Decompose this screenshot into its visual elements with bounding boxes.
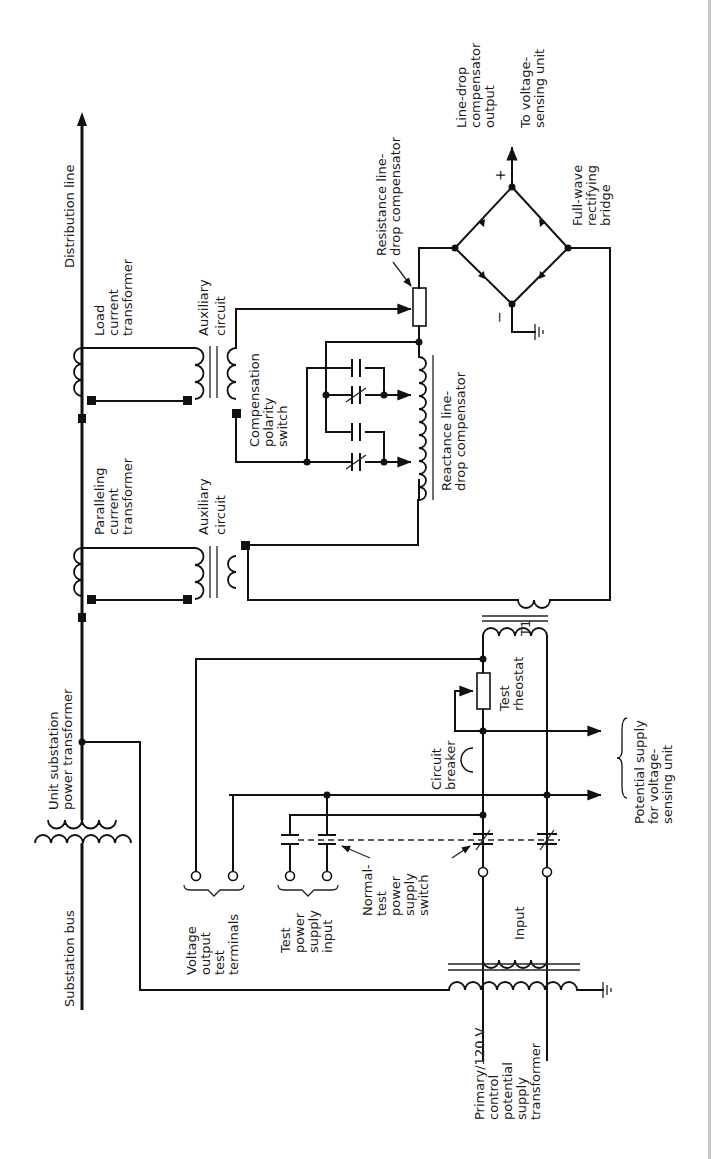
label-bridge-3: bridge bbox=[598, 184, 613, 226]
unit-substation-primary-coil-icon bbox=[35, 835, 131, 843]
label-test-power-4: input bbox=[320, 920, 335, 953]
label-normal-test-5: switch bbox=[416, 874, 431, 916]
unit-substation-secondary-coil-icon bbox=[48, 820, 116, 829]
label-ldc-output-2: compensator bbox=[468, 42, 483, 128]
page-edge-border bbox=[708, 0, 711, 1159]
load-ct-secondary bbox=[78, 346, 241, 423]
test-power-brace bbox=[278, 885, 338, 896]
label-ldc-output-3: output bbox=[482, 85, 497, 128]
resistance-to-bridge-wire bbox=[419, 248, 455, 288]
label-voltage-output-3: test bbox=[212, 950, 227, 975]
label-primary-5: transformer bbox=[528, 1042, 543, 1120]
label-primary-1: Primary/120 V bbox=[472, 1027, 487, 1120]
t1-secondary-coil-icon bbox=[483, 628, 547, 636]
label-test-power-3: supply bbox=[306, 910, 321, 953]
label-paralleling-ct-3: transformer bbox=[120, 457, 135, 535]
resistance-compensator bbox=[413, 288, 426, 326]
reactance-compensator-coil-icon bbox=[419, 357, 426, 500]
label-unit-substation-1: Unit substation bbox=[46, 711, 61, 810]
label-normal-test-3: power bbox=[388, 875, 403, 916]
label-circuit-breaker-2: breaker bbox=[443, 740, 458, 790]
label-to-vsu-1: To voltage- bbox=[518, 57, 533, 129]
label-normal-test-4: supply bbox=[402, 873, 417, 916]
label-load-ct-1: Load bbox=[92, 305, 107, 336]
label-aux-top-2: circuit bbox=[213, 296, 228, 336]
paralleling-ct-secondary bbox=[78, 541, 250, 622]
label-load-ct-2: current bbox=[106, 289, 121, 336]
label-potential-supply-3: sensing unit bbox=[660, 745, 675, 824]
label-potential-supply-2: for voltage- bbox=[646, 748, 661, 824]
compensation-polarity-switch bbox=[300, 342, 419, 470]
label-comp-polarity-1: Compensation bbox=[247, 353, 262, 447]
label-test-power-2: power bbox=[292, 912, 307, 953]
label-aux-top-1: Auxiliary bbox=[196, 279, 211, 336]
potential-supply-brace bbox=[617, 718, 627, 798]
circuit-breaker-icon bbox=[461, 748, 473, 772]
label-paralleling-ct-2: current bbox=[106, 488, 121, 535]
aux-bottom-wire bbox=[245, 500, 418, 545]
label-reactance-1: Reactance line- bbox=[439, 390, 454, 491]
control-transformer-primary-coil-icon bbox=[449, 982, 577, 990]
label-circuit-breaker-1: Circuit bbox=[429, 748, 444, 790]
label-test-rheostat-2: rheostat bbox=[511, 657, 526, 711]
label-potential-supply-1: Potential supply bbox=[632, 720, 647, 824]
label-load-ct-3: transformer bbox=[120, 258, 135, 336]
label-voltage-output-2: output bbox=[198, 932, 213, 975]
label-primary-2: control bbox=[486, 1075, 501, 1120]
label-to-vsu-2: sensing unit bbox=[532, 49, 547, 128]
label-aux-bottom-1: Auxiliary bbox=[196, 478, 211, 535]
t1-primary-coil-icon bbox=[518, 600, 550, 608]
label-voltage-output-1: Voltage bbox=[184, 926, 199, 975]
label-primary-4: supply bbox=[514, 1077, 529, 1120]
label-bridge-2: rectifying bbox=[584, 165, 599, 226]
distribution-line bbox=[77, 112, 87, 820]
label-primary-3: potential bbox=[500, 1062, 515, 1120]
label-input: Input bbox=[512, 906, 527, 940]
voltage-output-brace bbox=[184, 885, 244, 896]
label-comp-polarity-3: switch bbox=[275, 405, 290, 447]
line-drop-compensator-schematic: Distribution line Substation bus Unit su… bbox=[0, 0, 713, 1159]
label-t1: T1 bbox=[518, 620, 533, 637]
distribution-line-arrow-icon bbox=[77, 112, 87, 126]
label-test-rheostat-1: Test bbox=[497, 685, 512, 712]
label-substation-bus: Substation bus bbox=[62, 910, 77, 1007]
label-reactance-2: drop compensator bbox=[453, 371, 468, 491]
label-normal-test-2: test bbox=[374, 891, 389, 916]
test-rheostat bbox=[477, 673, 490, 709]
label-test-power-1: Test bbox=[278, 927, 293, 954]
label-plus: + bbox=[492, 169, 508, 181]
label-paralleling-ct-1: Paralleling bbox=[92, 468, 107, 535]
label-resistance-1: Resistance line- bbox=[374, 153, 389, 256]
label-comp-polarity-2: polarity bbox=[261, 397, 276, 447]
label-unit-substation-2: power transformer bbox=[60, 688, 75, 810]
label-aux-bottom-2: circuit bbox=[213, 495, 228, 535]
label-normal-test-1: Normal- bbox=[360, 864, 375, 916]
label-ldc-output-1: Line-drop bbox=[454, 67, 469, 128]
label-minus: − bbox=[491, 311, 507, 323]
label-resistance-2: drop compensator bbox=[388, 136, 403, 256]
normal-test-switch bbox=[282, 795, 560, 877]
label-voltage-output-4: terminals bbox=[226, 914, 241, 975]
label-distribution-line: Distribution line bbox=[62, 165, 77, 268]
label-bridge-1: Full-wave bbox=[570, 165, 585, 226]
